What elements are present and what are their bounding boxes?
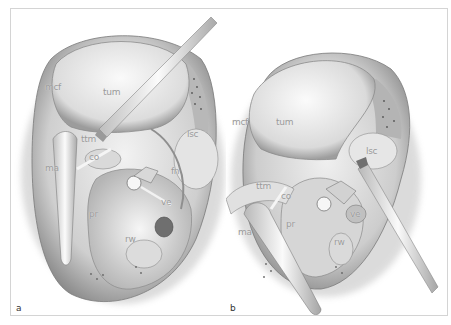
label-rw: rw <box>125 234 135 244</box>
label-rw: rw <box>334 237 344 247</box>
label-mcf: mcf <box>232 117 248 127</box>
label-ttm: ttm <box>81 134 96 144</box>
label-ttm: ttm <box>256 181 271 191</box>
label-ma: ma <box>45 163 59 173</box>
label-ma: ma <box>238 227 252 237</box>
label-tum: tum <box>103 87 120 97</box>
label-tum: tum <box>276 117 293 127</box>
figure-frame: mcf tum lsc ttm co ma fn ve pr rw a <box>10 8 448 316</box>
label-pr: pr <box>286 219 295 229</box>
label-lsc: lsc <box>187 129 198 139</box>
panel-b: mcf tum lsc ttm co ma pr ve rw b <box>226 9 448 315</box>
label-mcf: mcf <box>45 82 61 92</box>
label-ve: ve <box>161 197 171 207</box>
label-lsc: lsc <box>366 146 377 156</box>
panel-b-illustration <box>226 9 448 317</box>
panel-letter-a: a <box>16 303 22 313</box>
label-co: co <box>281 191 291 201</box>
label-fn: fn <box>171 166 179 176</box>
panel-a-illustration <box>11 9 226 317</box>
panel-a: mcf tum lsc ttm co ma fn ve pr rw a <box>11 9 226 315</box>
panel-letter-b: b <box>230 303 236 313</box>
label-pr: pr <box>89 209 98 219</box>
label-ve: ve <box>350 209 360 219</box>
label-co: co <box>89 152 99 162</box>
